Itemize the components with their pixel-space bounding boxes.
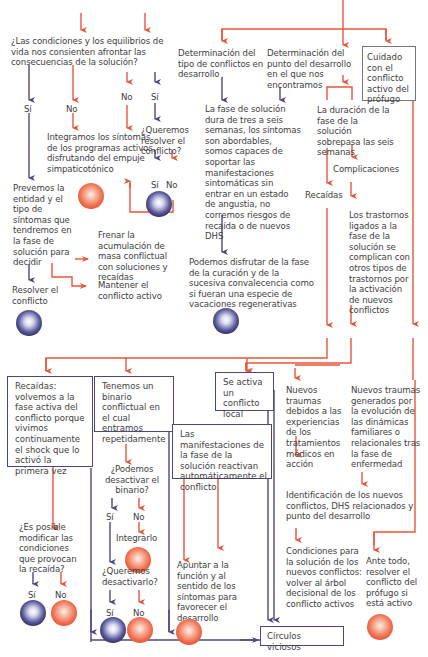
red-end-node: [51, 600, 77, 626]
label-no: No: [166, 180, 178, 191]
node-prevemos: Prevemos la entidad y el tipo de síntoma…: [13, 183, 75, 268]
node-mantener: Mantener el conflicto activo: [98, 280, 170, 301]
red-end-node: [78, 183, 104, 209]
node-cuidado-profugo: Cuidado con el conflicto activo del próf…: [362, 46, 416, 101]
node-fase-solucion: La fase de solución dura de tres a seis …: [205, 104, 301, 242]
node-conflicto-local: Se activa un conflicto local: [215, 372, 274, 411]
question-life-conditions: ¿Las condiciones y los equilibrios de vi…: [11, 36, 171, 68]
label-yes: Sí: [151, 180, 159, 191]
red-end-node: [127, 617, 153, 643]
node-manifestaciones: Las manifestaciones de la fase de la sol…: [172, 424, 272, 479]
node-resolve-conflict: Resolver el conflicto: [12, 285, 72, 306]
node-identificacion: Identificación de los nuevos conflictos,…: [286, 490, 414, 522]
label-yes: Sí: [106, 512, 114, 523]
node-nuevos-traumas-medicos: Nuevos traumas debidos a las experiencia…: [286, 385, 350, 470]
node-recaidas-label: Recaídas: [305, 190, 343, 201]
node-nuevos-traumas-familiares: Nuevos traumas generados por la evolució…: [351, 385, 421, 470]
node-integrate-symptoms: Integramos los síntomas de los programas…: [47, 132, 159, 174]
node-det-tipo: Determinación del tipo de conflictos en …: [178, 48, 264, 80]
label-no: No: [133, 512, 145, 523]
node-trastornos: Los trastornos ligados a la fase de la s…: [349, 210, 411, 316]
blue-end-node: [16, 310, 42, 336]
node-condiciones-nuevos: Condiciones para la solución de los nuev…: [286, 546, 362, 610]
blue-end-node: [100, 617, 126, 643]
label-yes: Sí: [24, 104, 32, 115]
label-yes: Sí: [151, 92, 159, 103]
node-det-punto: Determinación del punto del desarrollo e…: [267, 48, 357, 90]
node-apuntar: Apuntar a la función y al sentido de los…: [177, 560, 247, 624]
node-circulos-viciosos: Círculos viciosos: [260, 626, 344, 646]
blue-end-node: [146, 191, 172, 217]
label-yes: Sí: [28, 590, 36, 601]
blue-end-node: [20, 600, 46, 626]
blue-end-node: [213, 308, 239, 334]
node-ante-todo: Ante todo, resolver el conflicto del pró…: [366, 556, 424, 609]
node-integrarlo: Integrarlo: [116, 533, 157, 544]
node-duracion: La duración de la fase de la solución so…: [317, 105, 395, 158]
label-no: No: [55, 590, 67, 601]
node-binario-box: Tenemos un binario conflictual en el cua…: [94, 376, 174, 432]
node-complicaciones: Complicaciones: [333, 164, 399, 175]
node-frenar: Frenar la acumulación de masa conflictua…: [98, 230, 170, 283]
node-recaidas-box: Recaídas: volvemos a la fase activa del …: [7, 376, 93, 467]
question-queremos-desactivar: ¿Queremos desactivarlo?: [102, 566, 166, 587]
label-no: No: [66, 104, 78, 115]
node-podemos-disfrutar: Podemos disfrutar de la fase de la curac…: [189, 257, 315, 310]
label-no: No: [121, 92, 133, 103]
question-modificar-condiciones: ¿Es posible modificar las condiciones qu…: [19, 522, 85, 575]
question-desactivar-binario: ¿Podemos desactivar el binario?: [104, 464, 160, 496]
red-end-node: [176, 619, 202, 645]
red-end-node: [367, 614, 393, 640]
